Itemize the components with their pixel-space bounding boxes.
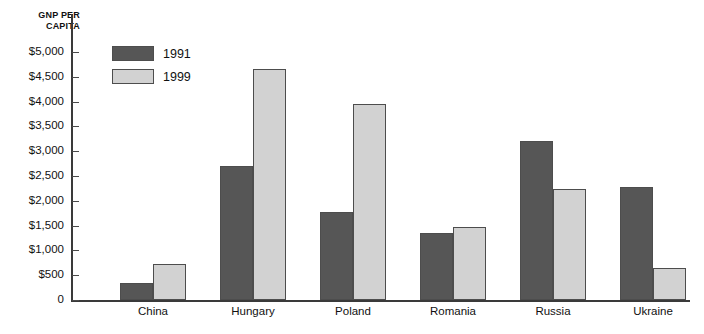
y-tick-label-5000: $5,000 [0,45,64,57]
bar-china-1991 [120,283,153,300]
bar-ukraine-1991 [620,187,653,300]
x-label-china: China [98,305,208,317]
y-tick-label-500: $500 [0,268,64,280]
y-tick-label-3500: $3,500 [0,119,64,131]
bar-russia-1991 [520,141,553,300]
y-tick-label-2500: $2,500 [0,169,64,181]
y-tick-0 [72,300,79,301]
x-label-russia: Russia [498,305,608,317]
y-tick-label-4000: $4,000 [0,95,64,107]
y-tick-label-0: 0 [0,293,64,305]
y-axis-title: GNP PER CAPITA [6,10,80,32]
y-tick-label-1500: $1,500 [0,219,64,231]
gnp-per-capita-bar-chart: GNP PER CAPITA 0$500$1,000$1,500$2,000$2… [0,0,704,334]
bar-romania-1991 [420,233,453,300]
bar-group-china [120,14,186,300]
bar-hungary-1999 [253,69,286,300]
bar-hungary-1991 [220,166,253,300]
bar-group-poland [320,14,386,300]
x-label-romania: Romania [398,305,508,317]
bar-china-1999 [153,264,186,300]
bar-group-russia [520,14,586,300]
bar-poland-1999 [353,104,386,300]
bar-group-ukraine [620,14,686,300]
bar-russia-1999 [553,189,586,300]
y-tick-label-3000: $3,000 [0,144,64,156]
bar-romania-1999 [453,227,486,300]
y-tick-label-4500: $4,500 [0,70,64,82]
bar-poland-1991 [320,212,353,300]
y-tick-label-1000: $1,000 [0,243,64,255]
bar-ukraine-1999 [653,268,686,300]
y-tick-label-2000: $2,000 [0,194,64,206]
plot-area [71,14,690,300]
x-axis-line [71,300,690,302]
bar-group-romania [420,14,486,300]
bar-group-hungary [220,14,286,300]
x-label-ukraine: Ukraine [598,305,704,317]
x-label-hungary: Hungary [198,305,308,317]
x-label-poland: Poland [298,305,408,317]
